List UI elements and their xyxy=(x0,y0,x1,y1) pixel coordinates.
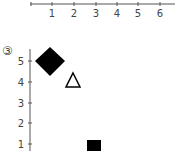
y-tick-label: 4 xyxy=(18,77,24,88)
top-number-line: 1 2 3 4 5 6 xyxy=(30,2,175,19)
square-marker xyxy=(87,140,101,151)
top-tick-label: 5 xyxy=(135,8,141,19)
top-tick-label: 3 xyxy=(93,8,99,19)
top-tick-label: 4 xyxy=(114,8,120,19)
chart-canvas: 1 2 3 4 5 6 ③ 5 4 3 2 1 xyxy=(0,0,181,151)
option-number: ③ xyxy=(2,44,13,58)
y-tick-label: 3 xyxy=(18,98,24,109)
y-tick-label: 1 xyxy=(18,139,24,150)
top-tick-label: 2 xyxy=(71,8,77,19)
top-tick-label: 6 xyxy=(157,8,163,19)
triangle-marker xyxy=(66,73,80,87)
diamond-marker xyxy=(35,47,65,76)
top-tick-label: 1 xyxy=(49,8,55,19)
y-axis: 5 4 3 2 1 xyxy=(18,49,32,151)
y-tick-label: 5 xyxy=(18,56,24,67)
y-tick-label: 2 xyxy=(18,118,24,129)
